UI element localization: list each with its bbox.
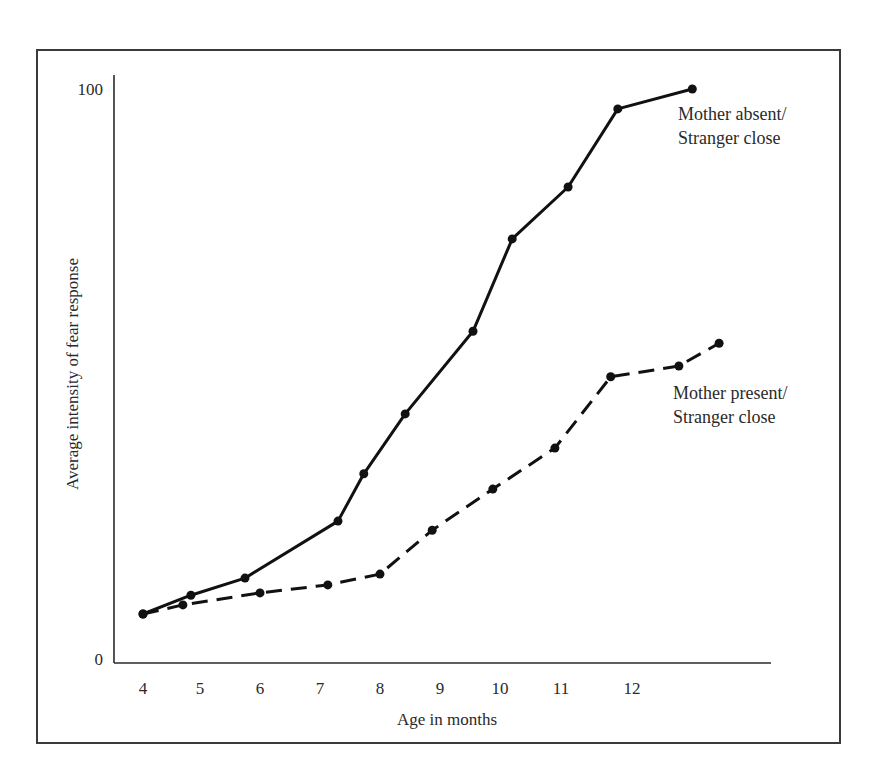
series-label-present-line2: Stranger close [673,407,775,427]
data-point [564,183,573,192]
data-point [359,469,368,478]
data-point [178,600,187,609]
data-point [488,485,497,494]
data-point [256,588,265,597]
data-point [715,339,724,348]
x-axis-title: Age in months [397,710,497,729]
y-axis-title: Average intensity of fear response [63,258,82,490]
data-point [613,104,622,113]
data-point [469,327,478,336]
series-layer [139,85,724,619]
data-point [241,574,250,583]
data-point [401,409,410,418]
y-tick-label-0: 0 [95,650,104,669]
x-tick-label: 5 [196,679,205,698]
chart: 100 0 4 5 6 7 8 9 10 11 12 Age in months… [0,0,879,781]
x-tick-label: 9 [436,679,445,698]
data-point [323,580,332,589]
x-tick-labels: 4 5 6 7 8 9 10 11 12 [139,679,641,698]
y-tick-label-100: 100 [78,80,104,99]
x-tick-label: 6 [256,679,265,698]
data-point [334,517,343,526]
series-line-mother-absent [143,89,692,614]
data-point [139,610,148,619]
x-tick-label: 8 [376,679,385,698]
data-point [688,85,697,94]
data-point [428,526,437,535]
x-tick-label: 11 [553,679,569,698]
data-point [606,372,615,381]
x-tick-label: 12 [624,679,641,698]
data-point [186,591,195,600]
x-tick-label: 7 [316,679,325,698]
series-label-absent-line1: Mother absent/ [678,104,786,124]
data-point [376,570,385,579]
x-tick-label: 10 [492,679,509,698]
data-point [674,362,683,371]
series-label-present-line1: Mother present/ [673,383,787,403]
data-point [550,444,559,453]
data-point [508,234,517,243]
x-tick-label: 4 [139,679,148,698]
series-label-absent-line2: Stranger close [678,128,780,148]
